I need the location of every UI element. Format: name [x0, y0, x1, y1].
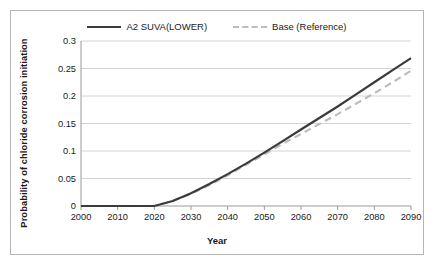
x-tick-label: 2020: [144, 212, 165, 222]
legend-label-a2-suva-lower: A2 SUVA(LOWER): [126, 22, 207, 32]
x-tick-label: 2010: [107, 212, 128, 222]
chart-legend: A2 SUVA(LOWER) Base (Reference): [11, 17, 423, 37]
x-tick-label: 2090: [401, 212, 422, 222]
y-tick-label: 0.1: [63, 146, 76, 156]
x-tick-label: 2060: [291, 212, 312, 222]
series-line-a2-suva-lower: [81, 58, 411, 206]
x-tick-label: 2040: [217, 212, 238, 222]
legend-label-base-reference: Base (Reference): [272, 22, 346, 32]
chart-figure: A2 SUVA(LOWER) Base (Reference) Probabil…: [10, 10, 424, 255]
y-axis-title-text: Probability of chloride corrosion initia…: [19, 38, 29, 227]
x-tick-label: 2080: [364, 212, 385, 222]
x-axis-title-text: Year: [207, 235, 227, 246]
y-tick-label: 0.05: [58, 174, 76, 184]
legend-item-a2-suva-lower: A2 SUVA(LOWER): [87, 22, 207, 32]
legend-item-base-reference: Base (Reference): [233, 22, 346, 32]
chart-canvas: [81, 41, 411, 206]
x-tick-label: 2070: [327, 212, 348, 222]
legend-swatch-dashed-line-icon: [233, 23, 267, 32]
y-tick-label: 0.25: [58, 64, 76, 74]
plot-area: 00.050.10.150.20.250.3 20002010202020302…: [81, 41, 411, 206]
x-tick-label: 2000: [71, 212, 92, 222]
y-tick-label: 0.2: [63, 91, 76, 101]
x-tick-label: 2050: [254, 212, 275, 222]
x-tick-label: 2030: [181, 212, 202, 222]
gridlines: [81, 41, 411, 206]
y-tick-label: 0: [71, 201, 76, 211]
y-tick-label: 0.3: [63, 36, 76, 46]
x-axis-title: Year: [11, 235, 423, 246]
legend-swatch-solid-line-icon: [87, 23, 121, 32]
y-tick-label: 0.15: [58, 119, 76, 129]
y-axis-title: Probability of chloride corrosion initia…: [13, 11, 35, 254]
